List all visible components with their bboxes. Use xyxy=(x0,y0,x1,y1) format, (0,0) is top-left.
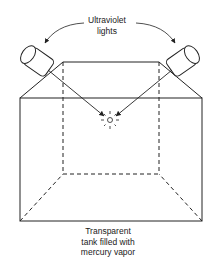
uv-lights-label-line2: lights xyxy=(77,26,137,37)
tank-label-line1: Transparent xyxy=(68,226,148,237)
glow-point-icon xyxy=(101,111,119,129)
tank-label-line2: tank filled with xyxy=(68,237,148,248)
tank-front-face xyxy=(20,98,202,221)
uv-lights-label-line1: Ultraviolet xyxy=(77,15,137,26)
right-beam-arrow xyxy=(116,70,172,116)
uv-lights-label: Ultraviolet lights xyxy=(77,15,137,36)
diagram-canvas xyxy=(0,0,214,264)
tank-label-line3: mercury vapor xyxy=(68,247,148,258)
right-uv-lamp-icon xyxy=(165,43,203,78)
label-arrow-right xyxy=(136,23,175,43)
tank-hidden-edges xyxy=(20,62,202,221)
tank-label: Transparent tank filled with mercury vap… xyxy=(68,226,148,258)
left-beam-arrow xyxy=(48,70,104,116)
tank xyxy=(20,62,202,221)
left-uv-lamp-icon xyxy=(17,43,55,78)
